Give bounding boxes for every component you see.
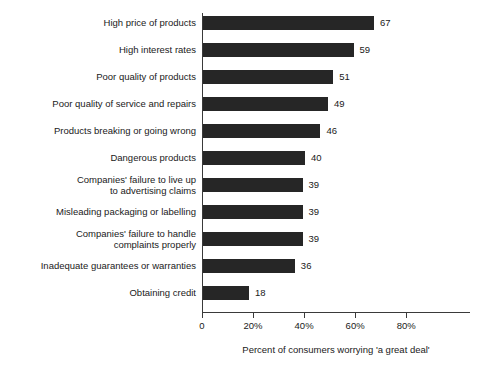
x-tick-3	[355, 313, 356, 318]
x-tick-label-1: 20%	[244, 320, 263, 331]
bar-row: Companies' failure to live up to adverti…	[0, 178, 489, 192]
bar	[203, 259, 295, 273]
bar-row: Obtaining credit18	[0, 286, 489, 300]
category-label: Inadequate guarantees or warranties	[41, 260, 196, 272]
bar-value-label: 59	[360, 43, 371, 57]
bar	[203, 97, 328, 111]
bar	[203, 124, 320, 138]
bar-value-label: 46	[326, 124, 337, 138]
x-axis-line	[202, 312, 470, 313]
bar-value-label: 39	[309, 205, 320, 219]
x-tick-label-2: 40%	[295, 320, 314, 331]
bar-value-label: 39	[309, 232, 320, 246]
category-label: Dangerous products	[110, 152, 196, 164]
bar-row: Poor quality of service and repairs49	[0, 97, 489, 111]
bar-row: Misleading packaging or labelling39	[0, 205, 489, 219]
x-axis-title: Percent of consumers worrying 'a great d…	[202, 344, 470, 355]
bar-value-label: 67	[380, 16, 391, 30]
bar-value-label: 40	[311, 151, 322, 165]
category-label: Products breaking or going wrong	[54, 125, 196, 137]
bar-value-label: 49	[334, 97, 345, 111]
category-label: High interest rates	[119, 44, 196, 56]
category-label: High price of products	[104, 17, 196, 29]
bar-row: Dangerous products40	[0, 151, 489, 165]
bar	[203, 205, 303, 219]
bar	[203, 151, 305, 165]
bar	[203, 286, 249, 300]
bar-row: Products breaking or going wrong46	[0, 124, 489, 138]
bar-row: Poor quality of products51	[0, 70, 489, 84]
bar	[203, 70, 333, 84]
x-tick-0	[202, 313, 203, 318]
category-label: Companies' failure to handle complaints …	[76, 228, 196, 251]
bar	[203, 16, 374, 30]
bar-value-label: 51	[339, 70, 350, 84]
x-tick-1	[253, 313, 254, 318]
bar-value-label: 39	[309, 178, 320, 192]
bar-row: High interest rates59	[0, 43, 489, 57]
bar-value-label: 36	[301, 259, 312, 273]
category-label: Obtaining credit	[129, 287, 196, 299]
category-label: Companies' failure to live up to adverti…	[77, 174, 196, 197]
bar	[203, 232, 303, 246]
bar	[203, 178, 303, 192]
x-tick-label-4: 80%	[397, 320, 416, 331]
bar-value-label: 18	[255, 286, 266, 300]
bar-row: Companies' failure to handle complaints …	[0, 232, 489, 246]
bar-row: Inadequate guarantees or warranties36	[0, 259, 489, 273]
category-label: Poor quality of products	[96, 71, 196, 83]
x-tick-4	[406, 313, 407, 318]
bar	[203, 43, 354, 57]
x-tick-2	[304, 313, 305, 318]
x-tick-label-3: 60%	[346, 320, 365, 331]
bar-row: High price of products67	[0, 16, 489, 30]
x-tick-label-0: 0	[199, 320, 204, 331]
bar-chart: 020%40%60%80% High price of products67Hi…	[0, 0, 489, 374]
category-label: Misleading packaging or labelling	[56, 206, 196, 218]
category-label: Poor quality of service and repairs	[52, 98, 196, 110]
